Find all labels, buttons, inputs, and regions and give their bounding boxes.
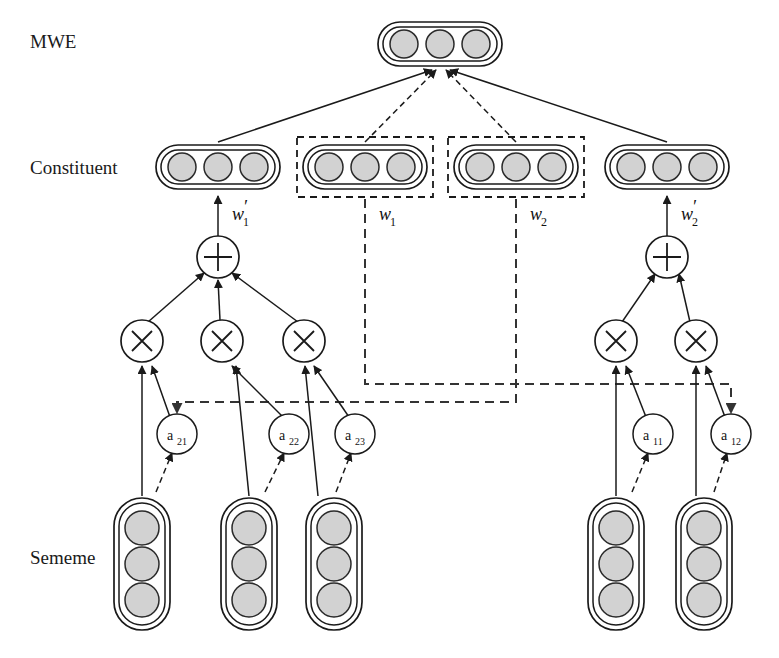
sememe-5-unit-3 bbox=[687, 583, 721, 617]
sememe-vector-1[interactable] bbox=[114, 498, 170, 630]
sum-right[interactable] bbox=[646, 236, 688, 278]
constituent-left-unit-3 bbox=[240, 153, 268, 181]
a21-sub: 21 bbox=[177, 436, 187, 447]
mwe-unit-2 bbox=[426, 30, 454, 58]
a12-sub: 12 bbox=[731, 436, 741, 447]
sememe-1-unit-1 bbox=[125, 511, 159, 545]
sememe-vector-2[interactable] bbox=[221, 498, 277, 630]
weight-label-w1-prime: w ′ 1 bbox=[232, 197, 249, 229]
a22-sub: 22 bbox=[289, 436, 299, 447]
sum-left[interactable] bbox=[197, 236, 239, 278]
edge-product-right-2-to-sum bbox=[679, 274, 690, 322]
figure-root: MWE Constituent Sememe bbox=[0, 0, 779, 658]
constituent-w2-unit-2 bbox=[502, 153, 530, 181]
product-left-1[interactable] bbox=[121, 320, 163, 362]
a21-base: a bbox=[167, 428, 174, 443]
sememe-vector-5[interactable] bbox=[676, 498, 732, 630]
constituent-w2-unit-1 bbox=[466, 153, 494, 181]
edge-sememe1-to-a21 bbox=[156, 453, 172, 492]
constituent-w2-unit-3 bbox=[538, 153, 566, 181]
a23-sub: 23 bbox=[355, 436, 365, 447]
edge-product-left-2-to-sum bbox=[218, 280, 220, 320]
sememe-vector-4[interactable] bbox=[588, 498, 644, 630]
weight-label-w1: w 1 bbox=[379, 204, 396, 229]
edges-constituent-to-mwe bbox=[218, 70, 667, 142]
constituent-w1-unit-2 bbox=[351, 153, 379, 181]
edge-sememe3-to-a23 bbox=[336, 453, 351, 492]
sememe-3-unit-1 bbox=[317, 511, 351, 545]
sememe-4-unit-2 bbox=[599, 547, 633, 581]
product-left-3[interactable] bbox=[283, 320, 325, 362]
a12-circle bbox=[711, 414, 751, 454]
weight-label-w2-prime: w ′ 2 bbox=[681, 197, 698, 229]
weight-label-w1-prime-sub: 1 bbox=[243, 215, 249, 229]
constituent-left-unit-1 bbox=[168, 153, 196, 181]
sememe-3-unit-2 bbox=[317, 547, 351, 581]
constituent-w2[interactable] bbox=[454, 145, 578, 189]
attention-node-a12[interactable]: a 12 bbox=[711, 414, 751, 454]
constituent-w1-unit-3 bbox=[387, 153, 415, 181]
mwe-unit-1 bbox=[390, 30, 418, 58]
route-w1-to-a12 bbox=[365, 199, 731, 413]
mwe-vector[interactable] bbox=[378, 22, 502, 66]
a11-sub: 11 bbox=[653, 436, 663, 447]
edge-sememe2-to-product-left-2 bbox=[236, 366, 249, 496]
a23-circle bbox=[335, 414, 375, 454]
weight-label-w2-prime-mark: ′ bbox=[692, 197, 697, 217]
row-label-constituent: Constituent bbox=[30, 157, 118, 178]
edge-sememe5-to-a12 bbox=[714, 453, 727, 492]
a11-circle bbox=[633, 414, 673, 454]
edge-product-left-1-to-sum bbox=[148, 273, 204, 322]
edge-sememe2-to-a22 bbox=[265, 453, 284, 492]
edge-right-constituent-to-mwe bbox=[450, 70, 667, 142]
edge-a23-to-product-left-3 bbox=[314, 366, 349, 417]
a12-base: a bbox=[721, 428, 728, 443]
sememe-5-unit-1 bbox=[687, 511, 721, 545]
a23-base: a bbox=[345, 428, 352, 443]
sememe-4-unit-3 bbox=[599, 583, 633, 617]
constituent-w1[interactable] bbox=[303, 145, 427, 189]
sememe-vector-3[interactable] bbox=[306, 498, 362, 630]
edge-a21-to-product-left-1 bbox=[152, 366, 170, 417]
row-label-sememe: Sememe bbox=[30, 547, 95, 568]
product-right-2[interactable] bbox=[675, 320, 717, 362]
constituent-right-unit-1 bbox=[617, 153, 645, 181]
weight-label-w2: w 2 bbox=[530, 204, 547, 229]
constituent-w1-unit-1 bbox=[315, 153, 343, 181]
edge-product-left-3-to-sum bbox=[232, 273, 298, 322]
a11-base: a bbox=[643, 428, 650, 443]
sememe-2-unit-3 bbox=[232, 583, 266, 617]
row-label-mwe: MWE bbox=[30, 31, 76, 52]
weight-label-w2-prime-sub: 2 bbox=[692, 215, 698, 229]
sememe-4-unit-1 bbox=[599, 511, 633, 545]
attention-node-a23[interactable]: a 23 bbox=[335, 414, 375, 454]
weight-label-w1-prime-mark: ′ bbox=[243, 197, 248, 217]
constituent-left-composed[interactable] bbox=[156, 145, 280, 189]
attention-node-a21[interactable]: a 21 bbox=[157, 414, 197, 454]
a22-base: a bbox=[279, 428, 286, 443]
constituent-left-unit-2 bbox=[204, 153, 232, 181]
constituent-right-composed[interactable] bbox=[605, 145, 729, 189]
sememe-2-unit-2 bbox=[232, 547, 266, 581]
a22-circle bbox=[269, 414, 309, 454]
sememe-1-unit-3 bbox=[125, 583, 159, 617]
a21-circle bbox=[157, 414, 197, 454]
sememe-1-unit-2 bbox=[125, 547, 159, 581]
sememe-5-unit-2 bbox=[687, 547, 721, 581]
sememe-3-unit-3 bbox=[317, 583, 351, 617]
product-right-1[interactable] bbox=[595, 320, 637, 362]
edge-a11-to-product-right-1 bbox=[626, 366, 646, 417]
weight-label-w1-sub: 1 bbox=[390, 215, 396, 229]
route-w2-to-a21 bbox=[177, 199, 516, 413]
constituent-right-unit-2 bbox=[653, 153, 681, 181]
sememe-2-unit-1 bbox=[232, 511, 266, 545]
mwe-unit-3 bbox=[462, 30, 490, 58]
product-left-2[interactable] bbox=[201, 320, 243, 362]
edge-product-right-1-to-sum bbox=[622, 274, 655, 322]
architecture-diagram: MWE Constituent Sememe bbox=[0, 0, 779, 658]
edge-a12-to-product-right-2 bbox=[706, 366, 725, 417]
weight-label-w2-sub: 2 bbox=[541, 215, 547, 229]
attention-node-a11[interactable]: a 11 bbox=[633, 414, 673, 454]
edge-sememe4-to-a11 bbox=[632, 453, 648, 492]
attention-node-a22[interactable]: a 22 bbox=[269, 414, 309, 454]
